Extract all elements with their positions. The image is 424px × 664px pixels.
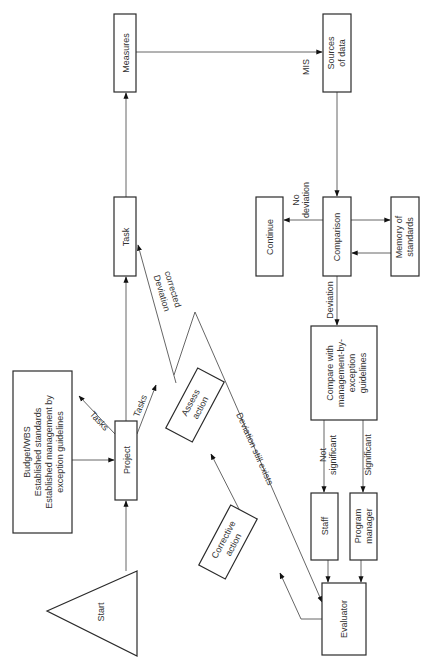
sources-label-2: of data xyxy=(337,39,347,67)
pm-label-2: manager xyxy=(364,508,374,544)
node-comparison: Comparison xyxy=(323,197,351,276)
node-budget-standards: Budget/WBS Established standards Establi… xyxy=(13,371,72,533)
node-memory-of-standards: Memory of standards xyxy=(391,197,419,276)
deviation-still-exists-label: Deviation still exists xyxy=(234,411,275,487)
budget-label-2: Established standards xyxy=(33,407,43,496)
staff-label: Staff xyxy=(320,516,330,535)
significant-label: Significant xyxy=(363,434,373,476)
edge-deviation-corrected xyxy=(138,245,176,383)
tasks-right-label: Tasks xyxy=(131,393,149,419)
compare-label-3: exception xyxy=(347,354,357,393)
budget-label-3: Established management by xyxy=(44,395,54,509)
mis-label: MIS xyxy=(301,59,311,75)
deviation-label: Deviation xyxy=(325,281,335,319)
project-label: Project xyxy=(122,445,132,474)
node-task: Task xyxy=(114,197,136,276)
node-corrective-action: Corrective action xyxy=(199,505,257,579)
start-label: Start xyxy=(96,602,106,622)
edge-deviation-still-exists xyxy=(174,312,322,602)
no-deviation-label-1: No xyxy=(291,194,301,206)
node-continue: Continue xyxy=(256,197,283,276)
comparison-label: Comparison xyxy=(332,213,342,262)
node-staff: Staff xyxy=(311,493,338,560)
memory-label-2: standards xyxy=(405,217,415,257)
tasks-left-label: Tasks xyxy=(88,409,111,433)
node-compare-with-guidelines: Compare with management-by- exception gu… xyxy=(311,326,377,420)
compare-label-4: guidelines xyxy=(358,352,368,393)
management-control-flowchart: Measures Sources of data Task Continue C… xyxy=(0,0,424,664)
compare-label-2: management-by- xyxy=(336,339,346,407)
memory-label-1: Memory of xyxy=(394,215,404,258)
budget-label-1: Budget/WBS xyxy=(22,426,32,478)
budget-label-4: exception guidelines xyxy=(55,411,65,493)
task-label: Task xyxy=(121,227,131,246)
not-significant-label-1: Not xyxy=(318,448,328,463)
edge-corrective-assess xyxy=(211,454,240,511)
compare-label-1: Compare with xyxy=(325,345,335,401)
sources-label-1: Sources xyxy=(326,36,336,70)
node-project: Project xyxy=(115,421,137,500)
node-program-manager: Program manager xyxy=(350,493,377,560)
measures-label: Measures xyxy=(121,33,131,73)
continue-label: Continue xyxy=(265,219,275,255)
not-significant-label-2: significant xyxy=(328,434,338,475)
node-measures: Measures xyxy=(114,14,136,92)
node-evaluator: Evaluator xyxy=(322,583,366,655)
no-deviation-label-2: deviation xyxy=(301,182,311,218)
node-sources-of-data: Sources of data xyxy=(323,14,351,92)
node-start: Start xyxy=(47,571,137,656)
pm-label-1: Program xyxy=(353,509,363,544)
edge-evaluator-corrective xyxy=(280,573,322,619)
evaluator-label: Evaluator xyxy=(339,600,349,638)
